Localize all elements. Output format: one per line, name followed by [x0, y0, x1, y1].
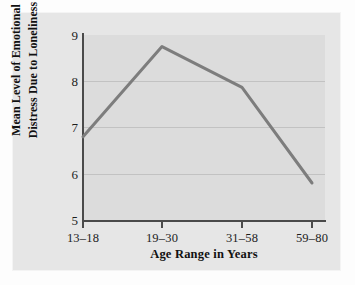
y-axis-title-line-1: Mean Level of Emotional: [8, 0, 25, 155]
y-tick-label-9: 9: [58, 29, 78, 42]
x-axis-line: [82, 220, 326, 222]
y-axis-line: [82, 33, 84, 222]
chart-figure: 9 8 7 6 5 13–18 19–30 31–58 59–80 Age Ra…: [0, 0, 355, 285]
y-axis-title-line-2: Distress Due to Loneliness: [25, 0, 42, 155]
y-tick-label-7: 7: [58, 121, 78, 134]
x-tick-mark-1: [82, 221, 84, 228]
gridline-7: [83, 127, 325, 128]
gridline-6: [83, 174, 325, 175]
y-axis-title: Mean Level of Emotional Distress Due to …: [8, 0, 42, 155]
x-tick-label-19-30: 19–30: [132, 231, 192, 246]
x-tick-mark-4: [311, 221, 313, 228]
y-tick-label-6: 6: [58, 168, 78, 181]
x-tick-label-59-80: 59–80: [282, 231, 342, 246]
x-axis-title: Age Range in Years: [83, 247, 325, 262]
x-tick-label-13-18: 13–18: [53, 231, 113, 246]
plot-area: [83, 35, 325, 220]
y-tick-label-8: 8: [58, 75, 78, 88]
y-tick-label-5: 5: [58, 214, 78, 227]
x-tick-mark-2: [161, 221, 163, 228]
x-tick-mark-3: [241, 221, 243, 228]
gridline-8: [83, 81, 325, 82]
x-tick-label-31-58: 31–58: [212, 231, 272, 246]
